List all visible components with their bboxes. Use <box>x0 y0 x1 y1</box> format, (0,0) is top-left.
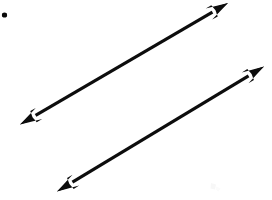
point-dot-group <box>2 12 7 17</box>
point-dot-core <box>3 13 7 17</box>
diagram-canvas: Two parallel double-headed arrows <box>0 0 272 200</box>
figure-svg: Two parallel double-headed arrows <box>0 0 272 200</box>
canvas-background <box>0 0 272 200</box>
